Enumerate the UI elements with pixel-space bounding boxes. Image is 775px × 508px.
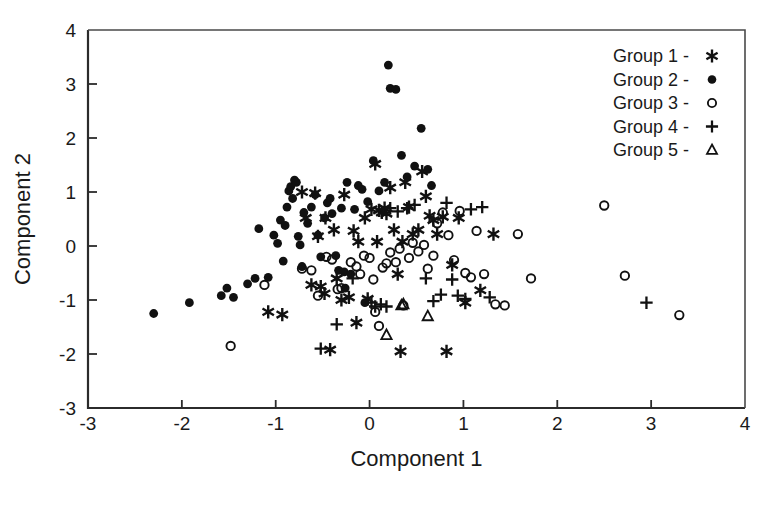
marker-filled-circle — [273, 239, 282, 248]
marker-open-circle — [600, 201, 608, 209]
legend-label: Group 5 - — [613, 140, 689, 160]
marker-asterisk — [420, 190, 431, 203]
y-tick-label: 0 — [65, 236, 76, 257]
y-tick-label: -3 — [59, 398, 76, 419]
legend-entry-2: Group 2 - — [613, 70, 716, 90]
y-tick-label: 3 — [65, 74, 76, 95]
marker-plus — [446, 273, 458, 285]
legend-entry-4: Group 4 - — [613, 117, 718, 137]
marker-plus — [427, 295, 439, 307]
marker-filled-circle — [311, 190, 320, 199]
marker-filled-circle — [307, 203, 316, 212]
marker-filled-circle — [269, 231, 278, 240]
legend-label: Group 3 - — [613, 93, 689, 113]
marker-open-circle — [527, 274, 535, 282]
marker-filled-circle — [254, 224, 263, 233]
marker-filled-circle — [410, 162, 419, 171]
marker-plus — [476, 201, 488, 213]
marker-filled-circle — [380, 178, 389, 187]
marker-open-circle — [392, 258, 400, 266]
marker-filled-circle — [279, 257, 288, 266]
marker-filled-circle — [326, 194, 335, 203]
marker-filled-circle — [217, 291, 226, 300]
marker-open-circle — [424, 264, 432, 272]
marker-filled-circle — [337, 204, 346, 213]
marker-asterisk — [488, 228, 499, 241]
marker-filled-circle — [375, 187, 384, 196]
marker-open-circle — [675, 311, 683, 319]
marker-filled-circle — [243, 279, 252, 288]
y-tick-label: 1 — [65, 182, 76, 203]
marker-open-circle — [480, 270, 488, 278]
marker-filled-circle — [708, 75, 717, 84]
marker-asterisk — [441, 345, 452, 358]
marker-open-circle — [375, 322, 383, 330]
marker-plus — [465, 203, 477, 215]
marker-filled-circle — [403, 172, 412, 181]
marker-filled-circle — [358, 185, 367, 194]
marker-filled-circle — [391, 85, 400, 94]
marker-open-circle — [444, 231, 452, 239]
marker-open-circle — [501, 301, 509, 309]
marker-open-circle — [369, 275, 377, 283]
marker-filled-circle — [294, 232, 303, 241]
data-points — [149, 61, 683, 358]
scatter-plot-figure: -3-2-101234 -3-2-101234 Group 1 -Group 2… — [0, 0, 775, 508]
y-tick-label: 4 — [65, 20, 76, 41]
marker-filled-circle — [281, 221, 290, 230]
marker-filled-circle — [149, 309, 158, 318]
x-tick-label: 4 — [740, 413, 751, 434]
marker-filled-circle — [292, 178, 301, 187]
marker-asterisk — [431, 228, 442, 241]
marker-filled-circle — [350, 205, 359, 214]
marker-filled-circle — [397, 151, 406, 160]
marker-plus — [380, 300, 392, 312]
marker-filled-circle — [363, 197, 372, 206]
x-tick-label: -2 — [173, 413, 190, 434]
y-tick-label: -2 — [59, 344, 76, 365]
x-axis-tick-labels: -3-2-101234 — [80, 413, 751, 434]
marker-filled-circle — [320, 214, 329, 223]
marker-filled-circle — [296, 241, 305, 250]
marker-open-circle — [514, 230, 522, 238]
marker-asterisk — [371, 235, 382, 248]
marker-open-circle — [405, 254, 413, 262]
x-tick-label: 3 — [646, 413, 657, 434]
marker-plus — [706, 120, 718, 132]
marker-asterisk — [328, 223, 339, 236]
marker-filled-circle — [343, 178, 352, 187]
marker-filled-circle — [299, 208, 308, 217]
marker-open-triangle — [423, 311, 433, 321]
marker-plus — [420, 272, 432, 284]
marker-asterisk — [262, 305, 273, 318]
marker-filled-circle — [251, 274, 260, 283]
x-axis-title: Component 1 — [350, 446, 482, 471]
marker-open-circle — [307, 266, 315, 274]
marker-filled-circle — [384, 61, 393, 70]
marker-filled-circle — [283, 203, 292, 212]
legend-label: Group 1 - — [613, 46, 689, 66]
marker-plus — [435, 288, 447, 300]
marker-asterisk — [359, 211, 370, 224]
marker-filled-circle — [346, 270, 355, 279]
marker-plus — [640, 297, 652, 309]
marker-filled-circle — [185, 298, 194, 307]
marker-asterisk — [351, 316, 362, 329]
marker-open-circle — [429, 252, 437, 260]
marker-asterisk — [475, 284, 486, 297]
x-tick-label: -1 — [267, 413, 284, 434]
marker-filled-circle — [229, 293, 238, 302]
marker-asterisk — [392, 267, 403, 280]
y-axis-title: Component 2 — [10, 153, 35, 285]
marker-filled-circle — [314, 231, 323, 240]
legend: Group 1 -Group 2 -Group 3 -Group 4 -Grou… — [613, 46, 718, 160]
marker-open-circle — [260, 281, 268, 289]
y-tick-label: 2 — [65, 128, 76, 149]
legend-label: Group 4 - — [613, 117, 689, 137]
x-tick-label: 1 — [458, 413, 469, 434]
marker-filled-circle — [423, 165, 432, 174]
plot-canvas: -3-2-101234 -3-2-101234 Group 1 -Group 2… — [0, 0, 775, 508]
y-tick-label: -1 — [59, 290, 76, 311]
marker-open-circle — [621, 272, 629, 280]
marker-plus — [440, 197, 452, 209]
